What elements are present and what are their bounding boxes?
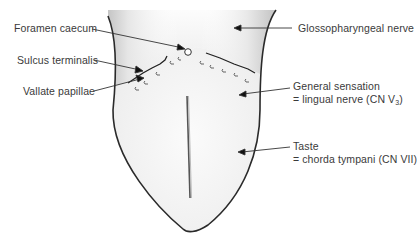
- lingual-nerve-close: ): [399, 93, 403, 105]
- label-glossopharyngeal-nerve: Glossopharyngeal nerve: [298, 22, 414, 35]
- general-sensation-heading: General sensation: [293, 80, 403, 93]
- taste-nerve: = chorda tympani (CN VII): [293, 153, 417, 166]
- lingual-nerve-text: = lingual nerve (CN V: [293, 93, 395, 105]
- label-vallate-papillae: Vallate papillae: [23, 85, 95, 98]
- label-taste: Taste = chorda tympani (CN VII): [293, 140, 417, 166]
- label-sulcus-terminalis: Sulcus terminalis: [17, 54, 98, 67]
- foramen-caecum: [185, 49, 192, 56]
- label-foramen-caecum: Foramen caecum: [14, 22, 97, 35]
- taste-heading: Taste: [293, 140, 417, 153]
- label-general-sensation: General sensation = lingual nerve (CN V3…: [293, 80, 403, 109]
- general-sensation-nerve: = lingual nerve (CN V3): [293, 93, 403, 109]
